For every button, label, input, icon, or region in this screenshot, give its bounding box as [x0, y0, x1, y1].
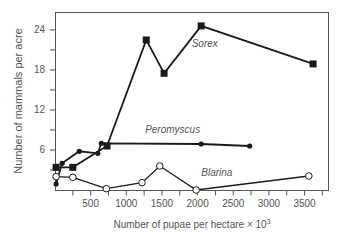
data-point-open-circle — [193, 187, 200, 194]
y-axis-label: Number of mammals per acre — [12, 28, 24, 174]
series-line — [56, 26, 313, 167]
y-tick-label: 6 — [39, 144, 45, 155]
x-tick-label: 2500 — [222, 198, 245, 209]
data-point-open-circle — [70, 174, 77, 181]
data-point-dot — [199, 141, 204, 146]
data-point-dot — [95, 151, 100, 156]
data-point-square — [53, 164, 60, 171]
x-tick-label: 2000 — [186, 198, 209, 209]
data-point-dot — [99, 141, 104, 146]
y-tick-label: 12 — [34, 104, 46, 115]
chart: 500100015002000250030003500 6121824 Sore… — [0, 0, 344, 240]
series-blarina: Blarina — [53, 163, 312, 194]
series-group: SorexPeromyscusBlarina — [53, 22, 317, 193]
series-sorex: Sorex — [53, 22, 317, 170]
data-point-square — [143, 36, 150, 43]
data-point-open-circle — [139, 179, 146, 186]
data-point-open-circle — [103, 185, 110, 192]
data-point-square — [69, 164, 76, 171]
data-point-open-circle — [306, 173, 313, 180]
x-tick-label: 3000 — [258, 198, 281, 209]
data-point-open-circle — [157, 163, 164, 170]
x-tick-label: 3500 — [293, 198, 316, 209]
data-point-dot — [77, 149, 82, 154]
data-point-open-circle — [53, 173, 60, 180]
y-axis: 6121824 — [34, 24, 56, 170]
data-point-square — [310, 60, 317, 67]
series-label: Peromyscus — [145, 124, 200, 135]
data-point-square — [161, 70, 168, 77]
x-tick-label: 500 — [82, 198, 99, 209]
x-tick-label: 1000 — [115, 198, 138, 209]
data-point-dot — [247, 143, 252, 148]
data-point-dot — [60, 161, 65, 166]
x-tick-label: 1500 — [151, 198, 174, 209]
data-point-dot — [53, 181, 58, 186]
y-tick-label: 24 — [34, 24, 46, 35]
data-point-square — [198, 22, 205, 29]
series-line — [56, 166, 309, 190]
y-tick-label: 18 — [34, 64, 46, 75]
series-label: Blarina — [201, 167, 233, 178]
series-label: Sorex — [192, 38, 219, 49]
x-axis-label: Number of pupae per hectare × 103 — [113, 218, 270, 230]
